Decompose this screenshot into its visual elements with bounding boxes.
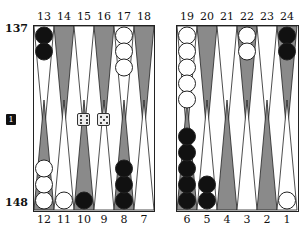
white-checker[interactable] [179,91,196,108]
black-checker[interactable] [116,192,133,209]
point-label-8: 8 [114,214,134,226]
die-pip [100,116,102,118]
white-checker[interactable] [179,59,196,76]
point-label-6: 6 [177,214,197,226]
die-pip [86,122,88,124]
point-label-1: 1 [277,214,297,226]
die-pip [80,122,82,124]
point-label-9: 9 [94,214,114,226]
white-checker[interactable] [179,27,196,44]
point-label-21: 21 [217,11,237,23]
die-pip [100,122,102,124]
white-checker[interactable] [56,192,73,209]
point-label-23: 23 [257,11,277,23]
point-label-22: 22 [237,11,257,23]
white-checker[interactable] [116,27,133,44]
white-checker[interactable] [116,43,133,60]
white-checker[interactable] [239,43,256,60]
point-label-4: 4 [217,214,237,226]
point-label-5: 5 [197,214,217,226]
point-2[interactable] [257,100,277,210]
black-checker[interactable] [179,128,196,145]
die-pip [106,122,108,124]
black-checker[interactable] [179,144,196,161]
point-label-12: 12 [34,214,54,226]
black-checker[interactable] [36,27,53,44]
point-label-16: 16 [94,11,114,23]
white-checker[interactable] [116,59,133,76]
black-checker[interactable] [279,27,296,44]
point-label-24: 24 [277,11,297,23]
die-1 [77,113,90,126]
white-checker[interactable] [36,192,53,209]
point-label-19: 19 [177,11,197,23]
point-label-18: 18 [134,11,154,23]
white-checker[interactable] [239,27,256,44]
white-checker[interactable] [36,160,53,177]
white-checker[interactable] [279,192,296,209]
point-label-3: 3 [237,214,257,226]
point-label-14: 14 [54,11,74,23]
white-checker[interactable] [36,176,53,193]
die-2 [97,113,110,126]
point-4[interactable] [217,100,237,210]
point-label-15: 15 [74,11,94,23]
die-pip [106,116,108,118]
black-checker[interactable] [179,192,196,209]
point-7[interactable] [134,100,154,210]
point-label-10: 10 [74,214,94,226]
point-label-13: 13 [34,11,54,23]
board-graphics [0,0,307,238]
die-pip [80,115,82,117]
black-checker[interactable] [199,192,216,209]
black-checker[interactable] [179,176,196,193]
black-checker[interactable] [36,43,53,60]
die-pip [86,119,88,121]
black-checker[interactable] [199,176,216,193]
point-label-11: 11 [54,214,74,226]
point-label-7: 7 [134,214,154,226]
white-checker[interactable] [179,75,196,92]
die-pip [80,119,82,121]
black-checker[interactable] [76,192,93,209]
point-3[interactable] [237,100,257,210]
black-checker[interactable] [179,160,196,177]
black-checker[interactable] [279,43,296,60]
black-checker[interactable] [116,160,133,177]
white-checker[interactable] [179,43,196,60]
die-pip [103,119,105,121]
black-checker[interactable] [116,176,133,193]
point-label-2: 2 [257,214,277,226]
point-label-17: 17 [114,11,134,23]
die-pip [86,115,88,117]
point-label-20: 20 [197,11,217,23]
